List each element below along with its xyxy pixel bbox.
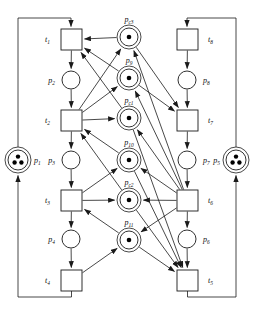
place-label-p1: p1: [33, 156, 41, 166]
place-p6[interactable]: [178, 230, 196, 248]
transition-label-t6: t6: [208, 196, 213, 206]
transition-t6[interactable]: [177, 190, 198, 211]
transition-label-t2: t2: [45, 116, 50, 126]
place-label-p11: p11: [124, 218, 134, 228]
transition-t1[interactable]: [61, 29, 82, 50]
place-p8[interactable]: [178, 71, 196, 89]
place-label-p9: p9: [125, 56, 133, 66]
arc-t6-to-p11: [141, 208, 176, 232]
place-p9[interactable]: [117, 66, 141, 90]
transition-label-t7: t7: [208, 116, 213, 126]
place-label-p3: p3: [47, 156, 55, 166]
arc-t2-to-p9: [83, 87, 118, 113]
place-p10[interactable]: [117, 148, 141, 172]
place-p3[interactable]: [62, 151, 80, 169]
place-label-p7: p7: [202, 156, 210, 166]
place-p5[interactable]: [223, 147, 249, 173]
petri-net-diagram: p1p2p3p4p5p6p7p8pc3p9pc1p10pc2p11t1t2t3t…: [0, 0, 254, 312]
arc-pc3-to-t1: [85, 38, 117, 39]
place-pc1[interactable]: [117, 106, 141, 130]
transition-t7[interactable]: [177, 110, 198, 131]
transition-t4[interactable]: [61, 270, 82, 291]
arc-p10-to-t5: [134, 171, 181, 267]
place-label-p5: p5: [212, 156, 220, 166]
place-label-p10: p10: [123, 138, 134, 148]
place-p2[interactable]: [62, 71, 80, 89]
transition-label-t3: t3: [45, 196, 50, 206]
place-label-pc1: pc1: [123, 96, 133, 106]
place-p1[interactable]: [5, 147, 31, 173]
place-label-p4: p4: [47, 235, 55, 245]
arc-t2-to-pc1: [83, 119, 115, 120]
arc-p11-to-t5: [139, 247, 174, 271]
arc-t3-to-p10: [83, 168, 118, 192]
arc-pc1-to-t1: [81, 53, 122, 108]
petri-net-canvas: p1p2p3p4p5p6p7p8pc3p9pc1p10pc2p11t1t2t3t…: [0, 0, 254, 312]
transition-label-t8: t8: [208, 35, 213, 45]
arc-p9-to-t7: [139, 85, 174, 111]
arc-p10-to-t2: [85, 129, 119, 152]
arc-t6-to-p10: [141, 168, 177, 193]
arc-pc2-to-t2: [81, 134, 122, 190]
place-p4[interactable]: [62, 230, 80, 248]
place-pc2[interactable]: [117, 188, 141, 212]
place-label-pc2: pc2: [123, 178, 133, 188]
place-p7[interactable]: [178, 151, 196, 169]
transition-t3[interactable]: [61, 190, 82, 211]
arc-t4-to-p11: [83, 248, 118, 272]
arc-t6-to-p9: [135, 91, 182, 189]
place-label-p8: p8: [202, 76, 210, 86]
place-label-p2: p2: [47, 76, 55, 86]
transition-label-t5: t5: [208, 276, 213, 286]
transition-t8[interactable]: [177, 29, 198, 50]
place-label-pc3: pc3: [123, 15, 133, 25]
place-label-p6: p6: [202, 235, 210, 245]
transition-t2[interactable]: [61, 110, 82, 131]
transition-label-t4: t4: [45, 276, 50, 286]
place-p11[interactable]: [117, 228, 141, 252]
place-pc3[interactable]: [117, 25, 141, 49]
transition-t5[interactable]: [177, 270, 198, 291]
transition-label-t1: t1: [45, 35, 50, 45]
arc-p11-to-t3: [85, 209, 119, 232]
